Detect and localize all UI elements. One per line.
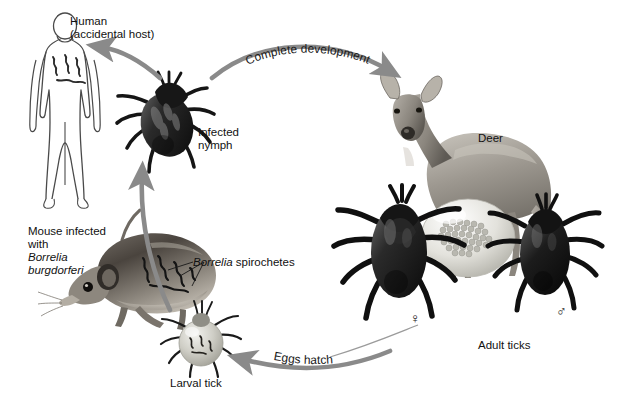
- infected-nymph-tick: [117, 72, 214, 172]
- lyme-life-cycle-figure: Complete development Eggs hatch Human(ac…: [0, 0, 619, 399]
- human-figure: [30, 13, 101, 208]
- label-infected-nymph: Infectednymph: [198, 126, 239, 152]
- arrow-label-eggs-hatch: Eggs hatch: [273, 349, 334, 367]
- label-borrelia-spirochetes: Borrelia spirochetes: [193, 256, 295, 269]
- female-to-eggs-leader-line: [330, 325, 418, 357]
- arrow-label-complete-development: Complete development: [243, 42, 372, 68]
- label-deer: Deer: [478, 132, 503, 145]
- arrow-nymph-to-human: [101, 47, 160, 78]
- label-adult-ticks: Adult ticks: [478, 339, 530, 352]
- female-symbol: ♀: [410, 311, 421, 325]
- label-mouse-infected: Mouse infectedwithBorreliaburgdorferi: [28, 225, 106, 277]
- label-human: Human(accidental host): [70, 15, 154, 41]
- larval-tick: [161, 301, 241, 377]
- label-larval-tick: Larval tick: [170, 377, 222, 390]
- male-symbol: ♂: [556, 304, 567, 318]
